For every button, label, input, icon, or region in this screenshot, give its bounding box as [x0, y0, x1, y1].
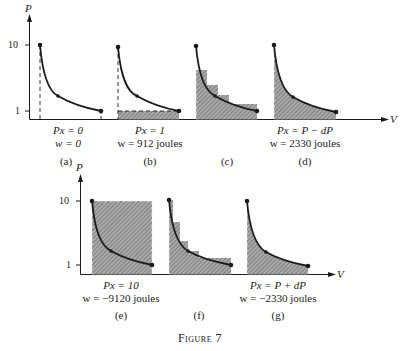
caption-d-line2: w = 2330 joules [270, 137, 341, 149]
panel-d [272, 43, 339, 120]
figure-7-diagram [0, 0, 405, 351]
y-tick-1-bottom: 1 [66, 259, 71, 271]
caption-b-line2: w = 912 joules [117, 137, 182, 149]
tag-d: (d) [299, 155, 312, 167]
x-axis-label-bottom: V [337, 268, 344, 280]
caption-g-line1: Px = P + dP [250, 279, 306, 291]
caption-e-line2: w = −9120 joules [83, 292, 160, 304]
caption-a-line2: w = 0 [55, 137, 81, 149]
tag-a: (a) [60, 155, 72, 167]
tag-g: (g) [272, 309, 285, 321]
panel-e [90, 199, 155, 275]
y-axis-label-top: P [25, 2, 32, 14]
panel-b [116, 45, 182, 120]
x-axis-label-top: V [390, 113, 397, 125]
caption-b-line1: Px = 1 [135, 124, 165, 136]
y-tick-10-bottom: 10 [59, 195, 69, 207]
panel-f [167, 198, 234, 275]
caption-d-line1: Px = P − dP [277, 124, 333, 136]
y-axis-label-bottom: P [76, 161, 83, 173]
tag-b: (b) [144, 155, 157, 167]
tag-e: (e) [115, 309, 127, 321]
figure-title: Figure 7 [178, 332, 222, 344]
y-tick-1-top: 1 [15, 105, 20, 117]
caption-e-line1: Px = 10 [103, 279, 139, 291]
panel-a [38, 43, 104, 119]
y-tick-10-top: 10 [8, 39, 18, 51]
panel-c [194, 44, 260, 120]
tag-c: (c) [221, 155, 233, 167]
tag-f: (f) [194, 309, 205, 321]
panel-g [245, 199, 311, 275]
caption-g-line2: w = −2330 joules [240, 292, 317, 304]
caption-a-line1: Px = 0 [53, 124, 83, 136]
